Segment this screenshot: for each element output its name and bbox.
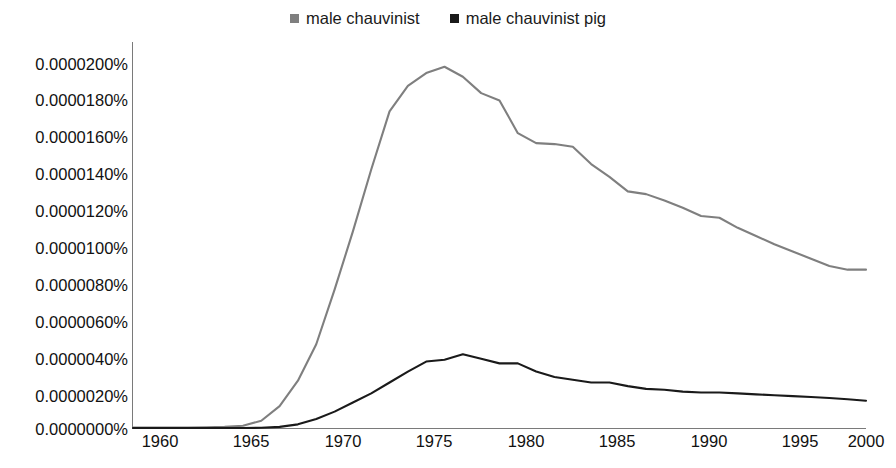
ngram-chart: male chauvinist male chauvinist pig 0.00… [0,0,896,468]
series-plot [0,0,896,468]
series-line-male-chauvinist-pig [133,354,866,428]
series-line-male-chauvinist [133,67,866,428]
